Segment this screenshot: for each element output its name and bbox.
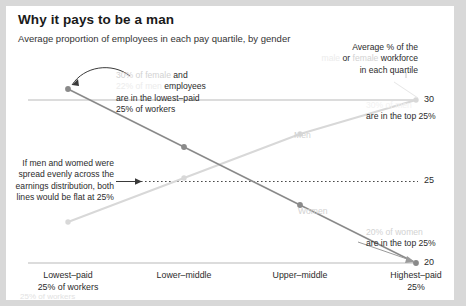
legend-note-rest: workforce — [378, 53, 418, 63]
annotation-mid-left-line2: spread evenly across the — [18, 169, 114, 179]
annotation-top-right-line2: are in the top 25% — [366, 111, 436, 121]
annotation-male-share: 22% of men — [116, 81, 162, 91]
chart-card: Why it pays to be a man Average proporti… — [6, 6, 454, 300]
x-label-lowest-paid-line2: 25% of workers — [38, 282, 99, 292]
annotation-top-right-line1: 30% of men — [366, 100, 412, 110]
series-label-women: Women — [298, 206, 327, 216]
annotation-bottom-right: 20% of women are in the top 25% — [366, 227, 436, 250]
data-point-men — [65, 219, 70, 224]
annotation-mid-left-line4: lines would be flat at 25% — [17, 192, 114, 202]
legend-note-male-word: male — [322, 53, 341, 63]
legend-note-or: or — [340, 53, 352, 63]
annotation-mid-left-line3: earnings distribution, both — [16, 181, 114, 191]
data-point-women — [181, 144, 187, 150]
annotation-and: and — [171, 70, 188, 80]
annotation-female-share: 30% of female — [116, 70, 171, 80]
y-tick-30: 30 — [424, 94, 434, 104]
series-label-men: Men — [294, 130, 311, 140]
annotation-top-left-line3: are in the lowest–paid — [116, 93, 200, 103]
annotation-mid-left: If men and womed were spread evenly acro… — [14, 158, 114, 204]
annotation-bottom-right-line1: 20% of women — [366, 227, 423, 237]
data-point-women — [65, 86, 71, 92]
x-label-lowest-paid: Lowest–paid 25% of workers — [18, 270, 118, 293]
legend-note-line3: in each quartile — [360, 65, 418, 75]
x-label-highest-paid-line2: 25% — [407, 282, 425, 292]
legend-note-female-word: female — [353, 53, 379, 63]
annotation-top-left: 30% of female and 22% of men employees a… — [116, 70, 206, 116]
legend-note: Average % of the male or female workforc… — [306, 42, 418, 76]
x-label-upper-middle: Upper–middle — [250, 270, 350, 282]
y-tick-25: 25 — [424, 175, 434, 185]
source-text: 25% of workers — [20, 292, 75, 301]
legend-note-line1: Average % of the — [352, 42, 418, 52]
x-label-upper-middle-line1: Upper–middle — [273, 270, 328, 280]
annotation-employees: employees — [162, 81, 206, 91]
annotation-top-left-line4: 25% of workers — [116, 104, 175, 114]
x-label-lower-middle: Lower–middle — [134, 270, 234, 282]
x-label-highest-paid: Highest–paid 25% — [366, 270, 466, 293]
x-label-lowest-paid-line1: Lowest–paid — [43, 270, 92, 280]
x-label-lower-middle-line1: Lower–middle — [157, 270, 212, 280]
data-point-men — [181, 175, 186, 180]
leader-arrowhead-mid-left — [135, 178, 142, 185]
data-point-women — [413, 260, 419, 266]
series-line-men — [68, 100, 416, 222]
leader-line-top-right — [394, 82, 418, 98]
chart-plot-area: Average % of the male or female workforc… — [6, 6, 454, 300]
annotation-mid-left-line1: If men and womed were — [22, 158, 114, 168]
x-label-highest-paid-line1: Highest–paid — [390, 270, 441, 280]
leader-arrowhead-bottom-right — [405, 256, 415, 263]
annotation-bottom-right-line2: are in the top 25% — [366, 238, 436, 248]
y-tick-20: 20 — [424, 257, 434, 267]
